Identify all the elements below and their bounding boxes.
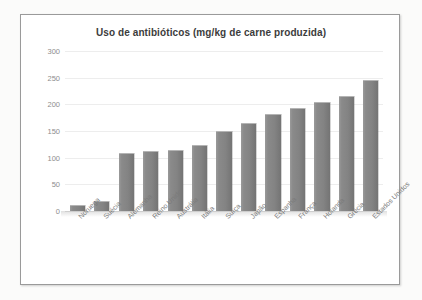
bar-slot [212,51,236,211]
x-label-slot: França [285,213,309,283]
y-axis-tick-label: 200 [47,100,60,109]
y-axis-tick-label: 300 [47,47,60,56]
bar-slot [65,51,89,211]
y-axis-tick-label: 250 [47,73,60,82]
x-axis-labels: NoruegaSuéciaAlemanhaReino UnidoAustráli… [65,213,383,283]
bar-alemanha [119,153,134,211]
y-axis-tick-label: 50 [52,180,60,189]
x-label-slot: Japão [236,213,260,283]
bar-slot [236,51,260,211]
x-label-slot: Grécia [334,213,358,283]
bar-estados-unidos [363,80,378,211]
bar-slot [187,51,211,211]
y-axis-tick-label: 100 [47,153,60,162]
x-label-slot: Espanha [261,213,285,283]
bar-slot [138,51,162,211]
x-label-slot: Suécia [89,213,113,283]
chart-frame: Uso de antibióticos (mg/kg de carne prod… [20,14,400,285]
bar-slot [285,51,309,211]
x-label-slot: Holanda [310,213,334,283]
bar-slot [334,51,358,211]
chart-title: Uso de antibióticos (mg/kg de carne prod… [21,27,401,38]
x-label-slot: Alemanha [114,213,138,283]
bar-slot [359,51,383,211]
x-label-slot: Suíça [212,213,236,283]
bar-holanda [314,102,329,211]
bar-espanha [265,114,280,211]
bar-suíça [216,131,231,211]
bar-slot [89,51,113,211]
y-axis-tick-label: 150 [47,127,60,136]
bar-slot [163,51,187,211]
x-label-slot: Estados Unidos [359,213,383,283]
bar-japão [241,123,256,211]
bar-grécia [339,96,354,211]
chart-page: Uso de antibióticos (mg/kg de carne prod… [0,0,422,300]
plot-area: 050100150200250300 [65,51,383,211]
bar-slot [114,51,138,211]
bar-slot [310,51,334,211]
x-label-slot: Reino Unido [138,213,162,283]
x-label-slot: Itália [187,213,211,283]
y-axis-tick-label: 0 [56,207,60,216]
bar-slot [261,51,285,211]
bar-series [65,51,383,211]
x-label-slot: Austrália [163,213,187,283]
x-label-slot: Noruega [65,213,89,283]
